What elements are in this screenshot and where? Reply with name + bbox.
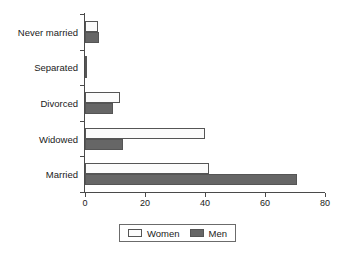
bar-women-divorced	[85, 92, 120, 103]
category-label: Never married	[18, 26, 78, 37]
x-axis-tick-label: 60	[260, 198, 270, 209]
x-axis-tick	[85, 193, 86, 197]
x-axis-tick	[145, 193, 146, 197]
y-axis-tick	[80, 14, 84, 15]
bar-men-widowed	[85, 139, 123, 150]
bar-men-divorced	[85, 103, 113, 114]
category-label: Widowed	[39, 133, 78, 144]
x-axis-tick-label: 80	[320, 198, 330, 209]
bar-women-widowed	[85, 128, 205, 139]
y-axis-tick	[80, 121, 84, 122]
legend-label-men: Men	[209, 228, 227, 239]
legend-label-women: Women	[147, 228, 180, 239]
bar-men-married	[85, 174, 297, 185]
bar-women-never-married	[85, 21, 98, 32]
y-axis-tick	[80, 50, 84, 51]
legend-swatch-women-icon	[128, 229, 142, 237]
y-axis-tick	[80, 85, 84, 86]
x-axis-tick-label: 0	[82, 198, 87, 209]
x-axis-tick	[205, 193, 206, 197]
y-axis-tick	[80, 192, 84, 193]
bar-men-never-married	[85, 32, 99, 43]
x-axis-tick-label: 40	[200, 198, 210, 209]
y-axis-tick	[80, 156, 84, 157]
bar-men-separated	[85, 67, 87, 78]
category-label: Separated	[34, 62, 78, 73]
category-label: Married	[46, 169, 78, 180]
plot-area	[85, 14, 325, 192]
category-label: Divorced	[41, 98, 79, 109]
bar-women-married	[85, 163, 209, 174]
bar-chart: 020406080 Never marriedSeparatedDivorced…	[0, 0, 350, 254]
x-axis-tick	[325, 193, 326, 197]
x-axis-tick-label: 20	[140, 198, 150, 209]
legend-swatch-men-icon	[190, 229, 204, 237]
bar-women-separated	[85, 56, 87, 67]
chart-legend: Women Men	[119, 224, 236, 242]
legend-entry-men: Men	[190, 228, 227, 239]
x-axis-tick	[265, 193, 266, 197]
legend-entry-women: Women	[128, 228, 180, 239]
